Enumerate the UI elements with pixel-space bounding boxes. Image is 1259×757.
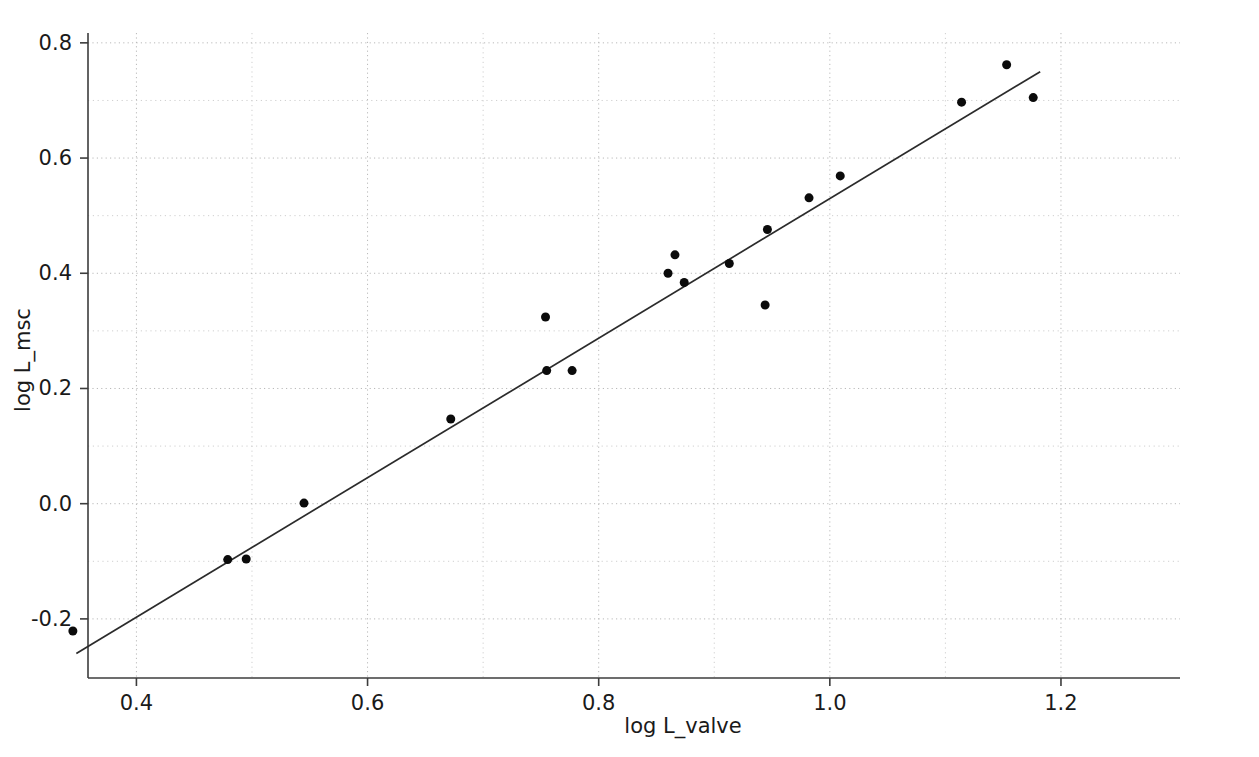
data-point	[242, 554, 251, 563]
grid-minor-layer	[88, 33, 1180, 678]
data-point	[957, 98, 966, 107]
x-tick-label: 0.6	[351, 691, 384, 715]
data-points-layer	[68, 60, 1037, 635]
x-axis-title: log L_valve	[624, 714, 741, 739]
data-point	[725, 259, 734, 268]
tick-marks-layer	[80, 43, 1061, 686]
data-point	[223, 555, 232, 564]
data-point	[68, 626, 77, 635]
x-tick-label: 1.0	[813, 691, 846, 715]
data-point	[446, 415, 455, 424]
data-point	[836, 171, 845, 180]
y-tick-label: 0.8	[39, 31, 72, 55]
regression-line	[76, 72, 1040, 654]
data-point	[763, 225, 772, 234]
y-tick-label: -0.2	[31, 607, 72, 631]
data-point	[670, 250, 679, 259]
data-point	[299, 499, 308, 508]
y-tick-label: 0.0	[39, 492, 72, 516]
data-point	[805, 193, 814, 202]
regression-line-layer	[76, 72, 1040, 654]
tick-labels-layer: -0.20.00.20.40.60.80.40.60.81.01.2	[31, 31, 1078, 715]
y-tick-label: 0.2	[39, 376, 72, 400]
data-point	[761, 300, 770, 309]
x-tick-label: 0.4	[120, 691, 153, 715]
scatter-plot-figure: -0.20.00.20.40.60.80.40.60.81.01.2 log L…	[0, 0, 1259, 757]
x-tick-label: 0.8	[582, 691, 615, 715]
data-point	[664, 269, 673, 278]
data-point	[1002, 60, 1011, 69]
y-tick-label: 0.6	[39, 146, 72, 170]
x-tick-label: 1.2	[1044, 691, 1077, 715]
y-tick-label: 0.4	[39, 261, 72, 285]
data-point	[541, 313, 550, 322]
data-point	[568, 366, 577, 375]
data-point	[542, 366, 551, 375]
plot-canvas: -0.20.00.20.40.60.80.40.60.81.01.2 log L…	[0, 0, 1259, 757]
y-axis-title: log L_msc	[11, 308, 36, 412]
data-point	[1029, 93, 1038, 102]
data-point	[680, 278, 689, 287]
